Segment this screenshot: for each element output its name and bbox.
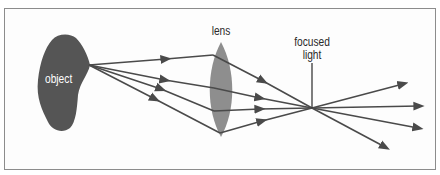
outgoing-ray-1 (312, 84, 403, 108)
outgoing-ray-3 (312, 108, 418, 128)
focused-label-line1: focused (287, 35, 338, 49)
incoming-ray-2 (89, 65, 214, 88)
focused-label-line2: light (287, 48, 338, 62)
incoming-ray-3 (89, 65, 214, 111)
object-label: object (45, 72, 72, 86)
outgoing-ray-4 (312, 108, 385, 147)
incoming-ray-1 (89, 55, 213, 65)
outgoing-ray-2 (312, 106, 419, 108)
refracted-ray-4 (220, 108, 312, 133)
lens-label: lens (203, 24, 239, 38)
light-rays (89, 55, 419, 147)
incoming-ray-4 (89, 65, 220, 133)
